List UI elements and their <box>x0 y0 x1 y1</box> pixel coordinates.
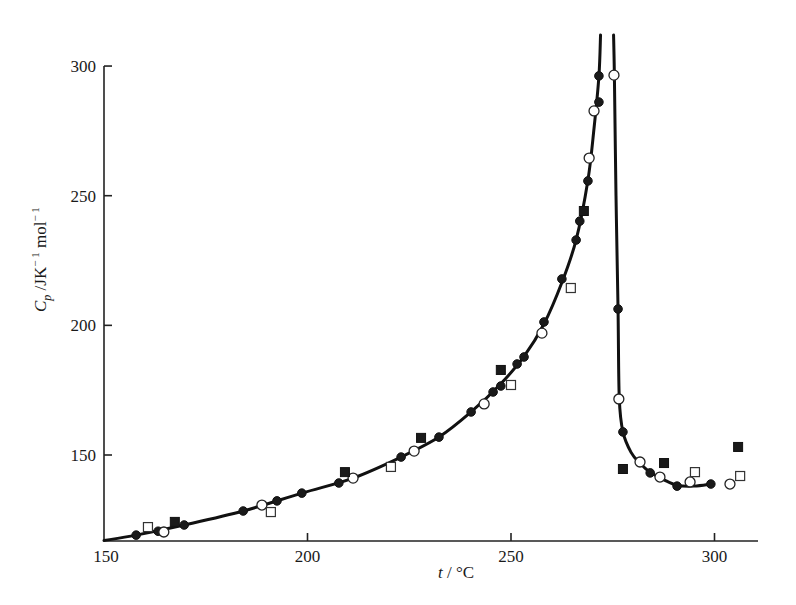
data-point-filled-circle <box>520 353 529 362</box>
x-tick-label: 300 <box>702 547 728 566</box>
data-point-filled-circle <box>180 521 189 530</box>
y-tick-label: 200 <box>71 316 97 335</box>
y-tick-label: 300 <box>71 57 97 76</box>
data-point-filled-circle <box>595 98 604 107</box>
data-point-filled-circle <box>397 453 406 462</box>
data-point-filled-circle <box>619 428 628 437</box>
data-point-filled-circle <box>489 388 498 397</box>
axes: 150200250300 150200250300 <box>71 57 759 566</box>
fitted-curve-left-branch <box>104 35 601 541</box>
data-point-open-circle <box>589 106 599 116</box>
data-point-open-square <box>143 523 152 532</box>
data-point-filled-circle <box>646 469 655 478</box>
chart-svg: 150200250300 150200250300 t / °C Cp /JK−… <box>0 0 796 605</box>
y-axis-label-exp1: − 1 <box>29 252 41 266</box>
data-point-open-circle <box>409 446 419 456</box>
y-axis-label-var: C <box>31 300 50 312</box>
data-point-filled-square <box>170 517 179 526</box>
y-axis-label-unit: /JK <box>31 266 50 295</box>
data-point-open-circle <box>635 457 645 467</box>
y-axis-label-mol: mol <box>31 221 50 252</box>
y-axis-label: Cp /JK− 1 mol− 1 <box>29 207 54 312</box>
data-point-open-circle <box>159 527 169 537</box>
data-point-open-square <box>566 284 575 293</box>
x-axis-label-unit: / °C <box>443 563 474 582</box>
data-point-filled-square <box>618 465 627 474</box>
data-point-filled-circle <box>575 217 584 226</box>
data-point-filled-square <box>579 206 588 215</box>
x-axis-label: t / °C <box>438 563 474 582</box>
data-point-filled-circle <box>132 531 141 540</box>
data-point-filled-circle <box>435 433 444 442</box>
data-point-filled-circle <box>558 275 567 284</box>
y-ticks: 150200250300 <box>71 57 113 465</box>
data-point-open-circle <box>614 394 624 404</box>
data-point-filled-circle <box>335 479 344 488</box>
data-point-open-circle <box>725 479 735 489</box>
y-tick-label: 250 <box>71 187 97 206</box>
fitted-curve-right-branch <box>614 35 711 486</box>
data-point-filled-square <box>660 459 669 468</box>
data-point-open-square <box>386 462 395 471</box>
data-point-open-square <box>690 468 699 477</box>
data-point-filled-square <box>340 468 349 477</box>
data-point-filled-circle <box>497 382 506 391</box>
data-point-filled-circle <box>614 305 623 314</box>
data-point-open-circle <box>584 153 594 163</box>
data-point-open-circle <box>685 477 695 487</box>
data-point-filled-circle <box>467 408 476 417</box>
x-tick-label: 150 <box>93 547 119 566</box>
y-axis-label-sub: p <box>40 295 54 302</box>
data-point-filled-circle <box>584 177 593 186</box>
data-point-filled-circle <box>513 360 522 369</box>
data-point-filled-circle <box>273 497 282 506</box>
data-point-open-circle <box>257 500 267 510</box>
data-point-filled-circle <box>298 489 307 498</box>
data-point-filled-circle <box>595 72 604 81</box>
x-tick-label: 200 <box>295 547 321 566</box>
data-point-open-square <box>266 508 275 517</box>
data-point-open-circle <box>479 399 489 409</box>
y-axis-label-exp2: − 1 <box>29 207 41 221</box>
x-tick-label: 250 <box>498 547 524 566</box>
data-point-filled-square <box>496 365 505 374</box>
data-point-open-square <box>507 380 516 389</box>
data-point-open-circle <box>537 328 547 338</box>
data-point-filled-square <box>417 433 426 442</box>
y-tick-label: 150 <box>71 446 97 465</box>
x-ticks: 150200250300 <box>93 533 727 566</box>
data-point-open-square <box>736 472 745 481</box>
data-point-filled-circle <box>673 482 682 491</box>
data-point-filled-circle <box>572 236 581 245</box>
data-points <box>132 70 745 539</box>
data-point-open-circle <box>655 472 665 482</box>
data-point-filled-circle <box>540 318 549 327</box>
data-point-filled-square <box>734 442 743 451</box>
data-point-filled-circle <box>707 480 716 489</box>
data-point-open-circle <box>609 70 619 80</box>
data-point-filled-circle <box>239 507 248 516</box>
